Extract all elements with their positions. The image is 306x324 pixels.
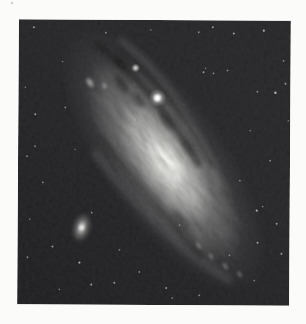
film-grain-specks xyxy=(17,19,291,306)
photo-frame xyxy=(17,0,305,323)
andromeda-galaxy-photograph xyxy=(0,0,306,324)
scanned-photo-page xyxy=(0,0,306,324)
paper-speck xyxy=(11,2,13,4)
